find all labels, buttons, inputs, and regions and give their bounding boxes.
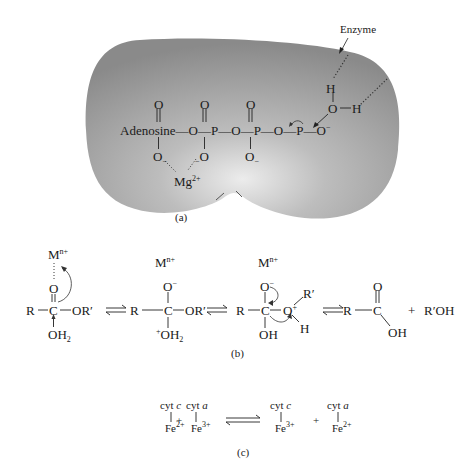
water-h-right: H bbox=[352, 102, 361, 115]
hydroxyl-3: OH bbox=[259, 328, 278, 341]
mg-ion: Mg2+ bbox=[174, 175, 201, 190]
r-group-1: R bbox=[26, 304, 35, 317]
fe-4: Fe2+ bbox=[332, 423, 352, 435]
carbon-2: C bbox=[164, 304, 173, 317]
cyt-a-1: cyt a bbox=[186, 400, 208, 411]
p3-o-minus: O− bbox=[245, 150, 259, 165]
caption-a: (a) bbox=[175, 211, 187, 223]
carbon-4: C bbox=[373, 304, 382, 317]
cyt-c-2: cyt c bbox=[270, 400, 291, 411]
r-group-4: R bbox=[343, 304, 352, 317]
carbon-1: C bbox=[49, 304, 58, 317]
plus-sign: + bbox=[408, 304, 415, 317]
fe-2: Fe3+ bbox=[191, 423, 211, 435]
r-prime-3: R′ bbox=[303, 287, 315, 300]
cyt-a-2: cyt a bbox=[327, 400, 349, 411]
caption-b: (b) bbox=[231, 347, 244, 359]
p3-oxo: O bbox=[246, 98, 255, 111]
oxyanion-2: O− bbox=[163, 280, 177, 295]
r-group-3: R bbox=[236, 304, 245, 317]
diagram-graphics bbox=[0, 0, 470, 461]
plus-2: + bbox=[313, 415, 319, 426]
carbonyl-o-4: O bbox=[373, 280, 382, 293]
atp-chain: Adenosine—O—P—O—P—O—P—O− bbox=[120, 124, 330, 139]
p2-o-minus: −O bbox=[195, 150, 209, 165]
metal-ion-1: Mn+ bbox=[48, 248, 68, 263]
water-h-top: H bbox=[326, 82, 335, 95]
r-prime-oh: R′OH bbox=[424, 304, 454, 317]
water-o: O bbox=[328, 102, 337, 115]
oxyanion-3: O− bbox=[260, 280, 274, 295]
r-group-2: R bbox=[130, 304, 139, 317]
caption-c: (c) bbox=[237, 446, 249, 458]
fe-3: Fe3+ bbox=[275, 423, 295, 435]
or-prime-2: OR′ bbox=[185, 304, 206, 317]
cyt-c-1: cyt c bbox=[160, 400, 181, 411]
p2-oxo: O bbox=[200, 98, 209, 111]
adenosine-label: Adenosine bbox=[120, 123, 176, 138]
plus-1: + bbox=[176, 415, 182, 426]
carbon-3: C bbox=[261, 304, 270, 317]
water-2: +OH2 bbox=[156, 328, 183, 343]
carbonyl-o: O bbox=[49, 282, 58, 295]
hydroxyl-4: OH bbox=[388, 326, 407, 339]
or-prime-1: OR′ bbox=[72, 304, 93, 317]
water-1: OH2 bbox=[48, 328, 71, 343]
metal-ion-3: Mn+ bbox=[258, 256, 278, 271]
metal-ion-2: Mn+ bbox=[155, 256, 175, 271]
enzyme-label: Enzyme bbox=[340, 24, 376, 35]
oxonium-3: O+ bbox=[283, 304, 297, 319]
p1-oxo: O bbox=[154, 98, 163, 111]
h-3: H bbox=[300, 322, 309, 335]
p1-o-minus: O− bbox=[153, 150, 167, 165]
